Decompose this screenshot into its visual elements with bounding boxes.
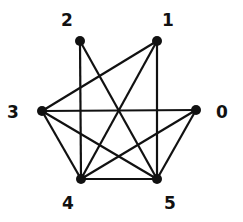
node-label-3: 3	[7, 102, 19, 122]
node-3	[37, 106, 47, 116]
graph-diagram: 012345	[0, 0, 243, 222]
graph-edges	[42, 41, 196, 179]
node-1	[152, 36, 162, 46]
edge-0-5	[157, 110, 196, 179]
node-2	[75, 36, 85, 46]
node-0	[191, 105, 201, 115]
node-4	[76, 174, 86, 184]
edge-1-3	[42, 41, 157, 111]
node-label-4: 4	[62, 193, 74, 213]
node-label-2: 2	[61, 10, 73, 30]
node-label-0: 0	[216, 102, 228, 122]
node-label-5: 5	[164, 193, 176, 213]
node-5	[152, 174, 162, 184]
edge-3-0	[42, 110, 196, 111]
node-label-1: 1	[162, 10, 174, 30]
edge-3-4	[42, 111, 81, 179]
